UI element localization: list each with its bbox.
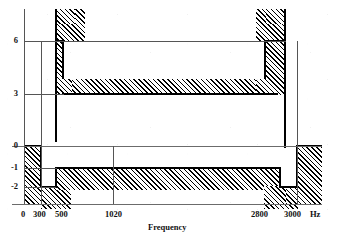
ytick-0: 0 [6,141,18,150]
upper-mask-outline-right-v [284,9,286,148]
upper-mask-outline-left-inner-v [62,41,64,79]
xtick-0: 0 [21,209,25,219]
xtick-300: 300 [33,209,46,219]
upper-mask-outline-floor [62,93,278,95]
gridline-ym2 [24,187,56,188]
upper-mask-outline-left-v [55,9,57,142]
xtick-500: 500 [55,209,68,219]
xaxis-unit: Hz [310,209,320,219]
lower-mask-outline-band-top [55,167,281,169]
gridline-y3 [24,94,64,95]
upper-mask-outline-right-inner-v [264,41,266,79]
x-axis [12,204,322,205]
gridline-x1020 [113,146,114,204]
gridline-y6 [24,41,286,42]
gridline-x300 [41,41,42,204]
xtick-3000: 3000 [284,209,301,219]
xtick-2800: 2800 [251,209,268,219]
ytick-3: 3 [6,89,18,98]
lower-mask-outline-band-v [55,167,57,188]
upper-mask-interior-clear [63,41,265,79]
frequency-mask-figure: 6 3 0 -1 -2 0 300 500 1020 2800 3000 Hz … [0,0,339,245]
xaxis-title: Frequency [148,222,187,232]
lower-mask-band [55,168,280,190]
upper-mask-left-step [55,9,75,24]
ytick-6: 6 [6,36,18,45]
ytick-minus2: -2 [2,182,18,191]
ytick-minus1: -1 [2,163,18,172]
gridline-x3000 [297,41,298,204]
upper-mask-right-step [266,9,286,24]
xtick-1020: 1020 [105,209,122,219]
lower-mask-left-block [24,146,41,204]
lower-band-clear-corridor [55,147,280,168]
lower-left-notch-clear [41,146,55,186]
lower-mask-outline-right-band-v [279,167,281,188]
y-axis [24,9,25,204]
axis-y0 [12,146,322,147]
